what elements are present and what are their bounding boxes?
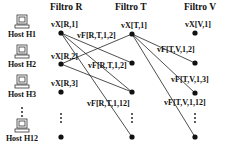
ellipsis-v xyxy=(194,113,196,123)
label-vx-t1: vX[T,1] xyxy=(121,22,147,30)
node-r2 xyxy=(58,61,63,66)
node-v12 xyxy=(192,134,197,139)
header-filtro-r: Filtro R xyxy=(50,3,82,13)
node-r12 xyxy=(58,134,63,139)
node-t3 xyxy=(129,89,134,94)
host-h12: Host H12 xyxy=(0,133,44,143)
node-t12 xyxy=(129,134,134,139)
node-v1 xyxy=(192,30,197,35)
label-vf-rt112: vF[R,T,1,12] xyxy=(87,100,130,108)
ellipsis-r xyxy=(60,113,62,123)
ellipsis-t xyxy=(131,113,133,123)
edge-t1-v3 xyxy=(132,34,195,93)
label-vf-tv13: vF[T,V,1,3] xyxy=(171,76,209,84)
label-vf-tv12: vF[T,V,1,2] xyxy=(157,46,195,54)
computer-icon xyxy=(15,15,29,28)
host-h2: Host H2 xyxy=(0,59,44,69)
header-filtro-t: Filtro T xyxy=(115,3,147,13)
computer-icon xyxy=(15,119,29,132)
header-filtro-v: Filtro V xyxy=(184,3,216,13)
label-vx-r3: vX[R,3] xyxy=(51,80,78,88)
node-t1 xyxy=(129,31,134,36)
node-v2 xyxy=(192,60,197,65)
node-r1 xyxy=(58,30,63,35)
label-vf-rt12-b: vF[R,T,1,2] xyxy=(88,62,127,70)
host-h3: Host H3 xyxy=(0,89,44,99)
host-name: Host H2 xyxy=(0,60,44,69)
host-h1: Host H1 xyxy=(0,29,44,39)
label-vx-r2: vX[R,2] xyxy=(51,53,78,61)
host-name: Host H12 xyxy=(0,134,44,143)
label-vx-r1: vX[R,1] xyxy=(51,21,78,29)
node-r3 xyxy=(58,89,63,94)
label-vf-rt12-a: vF[R,T,1,2] xyxy=(77,32,116,40)
node-t2 xyxy=(129,60,134,65)
label-vx-v1: vX[V,1] xyxy=(185,21,211,29)
ellipsis-hosts xyxy=(21,107,23,117)
label-vf-tv112: vF[T,V,1,12] xyxy=(164,99,206,107)
node-v3 xyxy=(192,90,197,95)
computer-icon xyxy=(15,75,29,88)
host-name: Host H1 xyxy=(0,30,44,39)
computer-icon xyxy=(15,45,29,58)
host-name: Host H3 xyxy=(0,90,44,99)
